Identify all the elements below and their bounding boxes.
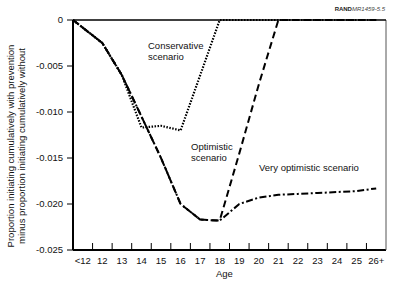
series-line-very-optimistic-scenario <box>73 20 376 221</box>
plot-area <box>0 0 399 288</box>
series-line-conservative-scenario <box>73 20 376 130</box>
series-line-optimistic-scenario <box>73 20 376 221</box>
